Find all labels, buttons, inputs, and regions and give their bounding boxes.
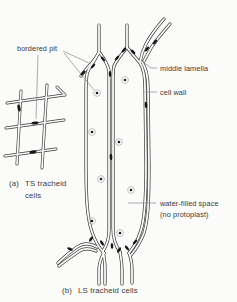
label-water-filled-space: water-filled space [159, 199, 219, 208]
bordered-pit-lens [99, 240, 105, 246]
figure-canvas: bordered pit middle lamella cell wall wa… [0, 0, 237, 302]
bordered-pit-lens [111, 243, 114, 249]
label-bordered-pit: bordered pit [17, 44, 57, 53]
ls-cell-walls [58, 19, 170, 284]
leader-bordered-pit-to-ts [36, 55, 38, 119]
caption-b-prefix: (b) [62, 286, 72, 295]
caption-a-line1: TS tracheid [25, 179, 67, 188]
caption-a-line2: cells [25, 191, 41, 200]
label-middle-lamella: middle lamella [160, 64, 209, 73]
caption-b-text: LS tracheid cells [78, 286, 138, 295]
bordered-pit-lens [124, 245, 130, 251]
caption-a-prefix: (a) [9, 179, 19, 188]
label-cell-wall: cell wall [160, 88, 187, 97]
label-no-protoplast: (no protoplast) [160, 210, 209, 219]
tracheid-diagram: bordered pit middle lamella cell wall wa… [0, 0, 237, 302]
ls-tracheid-drawing [58, 19, 170, 284]
ts-tracheid-drawing [5, 85, 65, 168]
